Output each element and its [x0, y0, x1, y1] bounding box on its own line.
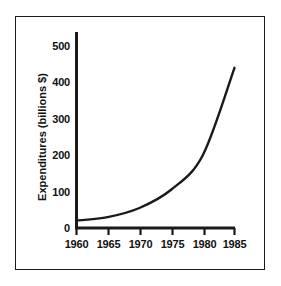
chart-figure: 500 400 300 200 100 0 1960 1965 1970 197…	[0, 0, 281, 286]
y-tick-label-500: 500	[48, 40, 70, 52]
x-tick-label-1985: 1985	[214, 238, 255, 250]
y-tick-label-400: 400	[48, 76, 70, 88]
data-series-line	[76, 68, 235, 221]
y-tick-label-300: 300	[48, 113, 70, 125]
y-tick-label-200: 200	[48, 149, 70, 161]
y-tick-label-0: 0	[48, 222, 70, 234]
y-axis-title: Expenditures (billions $)	[36, 46, 50, 228]
y-tick-label-100: 100	[48, 186, 70, 198]
